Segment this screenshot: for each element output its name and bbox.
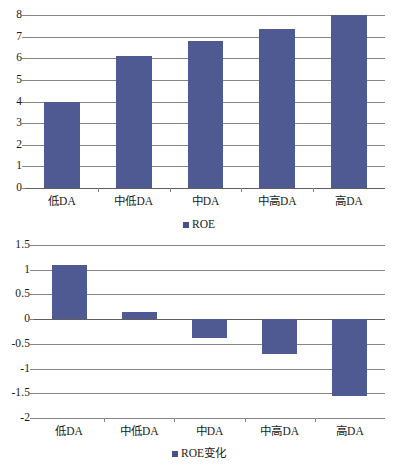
legend-label-roe: ROE [192, 219, 215, 231]
y-tick-mark [30, 418, 34, 419]
x-tick-mark [104, 418, 105, 422]
y-tick-label: 1.5 [15, 239, 30, 251]
y-axis-labels-bottom: 1.510.50-0.5-1-1.5-2 [0, 245, 30, 418]
x-tick-label: 中DA [170, 196, 242, 208]
legend-label-roe-change: ROE变化 [181, 448, 226, 460]
x-tick-label: 中高DA [241, 196, 313, 208]
bar [331, 15, 367, 188]
bar [192, 319, 227, 338]
x-tick-label: 中高DA [245, 426, 315, 438]
legend-top: ROE [0, 219, 398, 231]
y-tick-label: -1.5 [11, 387, 30, 399]
x-tick-mark [98, 188, 99, 192]
y-tick-label: -2 [20, 412, 30, 424]
bar [52, 265, 87, 319]
y-tick-label: 0.5 [15, 288, 30, 300]
x-tick-label: 低DA [26, 196, 98, 208]
bar-series-bottom [34, 245, 385, 418]
y-tick-mark [22, 188, 26, 189]
bar [44, 102, 80, 189]
y-tick-label: -1 [20, 363, 30, 375]
legend-swatch-icon [183, 222, 189, 228]
legend-bottom: ROE变化 [0, 448, 398, 460]
x-tick-label: 低DA [34, 426, 104, 438]
bar [262, 319, 297, 354]
x-tick-mark [174, 418, 175, 422]
legend-swatch-icon [172, 451, 178, 457]
x-tick-label: 中低DA [104, 426, 174, 438]
x-tick-mark [313, 188, 314, 192]
x-tick-label: 高DA [313, 196, 385, 208]
bar-series-top [26, 15, 385, 188]
bar [188, 41, 224, 188]
x-tick-label: 中DA [174, 426, 244, 438]
x-tick-mark [241, 188, 242, 192]
x-tick-label: 高DA [315, 426, 385, 438]
x-tick-mark [315, 418, 316, 422]
y-axis-labels-top: 012345678 [0, 15, 22, 188]
x-tick-mark [245, 418, 246, 422]
gridline [34, 418, 385, 419]
x-tick-mark [170, 188, 171, 192]
y-tick-label: -0.5 [11, 338, 30, 350]
x-tick-label: 中低DA [98, 196, 170, 208]
chart-roe-levels: 012345678 低DA中低DA中DA中高DA高DA ROE [0, 0, 398, 232]
bar [259, 29, 295, 188]
plot-area-top [26, 15, 385, 188]
gridline [26, 188, 385, 189]
bar [116, 56, 152, 188]
chart-roe-change: 1.510.50-0.5-1-1.5-2 低DA中低DA中DA中高DA高DA R… [0, 232, 398, 467]
bar [332, 319, 367, 396]
bar [122, 312, 157, 319]
plot-area-bottom [34, 245, 385, 418]
